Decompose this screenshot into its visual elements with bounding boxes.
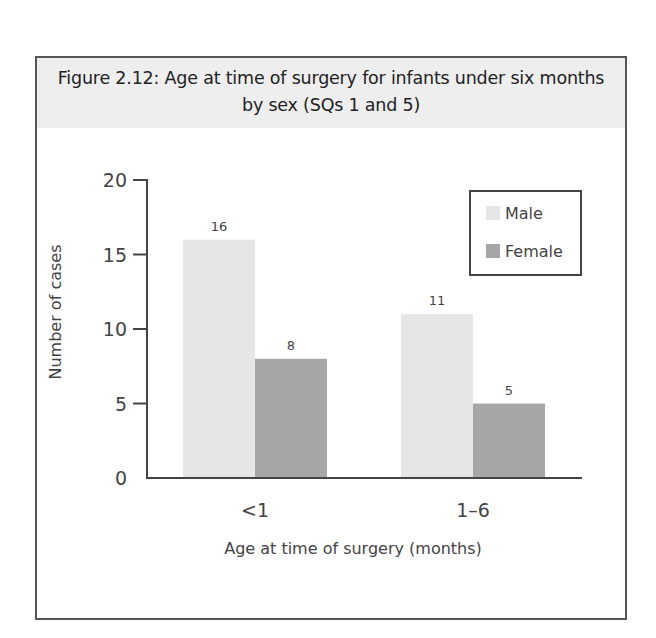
bar-male [401, 314, 473, 478]
y-tick-label: 0 [115, 467, 127, 489]
x-category-label: 1–6 [456, 499, 490, 521]
legend: MaleFemale [470, 191, 581, 275]
bar-male [183, 240, 255, 478]
y-axis-ticks: 05101520 [103, 169, 147, 489]
legend-label-male: Male [505, 204, 543, 223]
bar-female [473, 404, 545, 479]
legend-swatch-male [486, 206, 500, 220]
x-axis-title: Age at time of surgery (months) [224, 539, 482, 558]
legend-swatch-female [486, 244, 500, 258]
bar-value-label: 11 [429, 293, 446, 308]
y-axis-title: Number of cases [46, 245, 65, 380]
y-tick-label: 15 [103, 244, 127, 266]
y-axis-label: Number of cases [46, 245, 65, 380]
bar-chart: Number of cases 05101520 168115 <11–6 Ag… [0, 0, 656, 638]
x-axis-categories: <11–6 [241, 499, 490, 521]
x-category-label: <1 [241, 499, 269, 521]
y-tick-label: 10 [103, 318, 127, 340]
y-tick-label: 5 [115, 393, 127, 415]
bar-value-label: 16 [211, 219, 228, 234]
y-tick-label: 20 [103, 169, 127, 191]
legend-label-female: Female [505, 242, 563, 261]
bar-female [255, 359, 327, 478]
bar-value-label: 5 [505, 383, 513, 398]
bar-value-label: 8 [287, 338, 295, 353]
